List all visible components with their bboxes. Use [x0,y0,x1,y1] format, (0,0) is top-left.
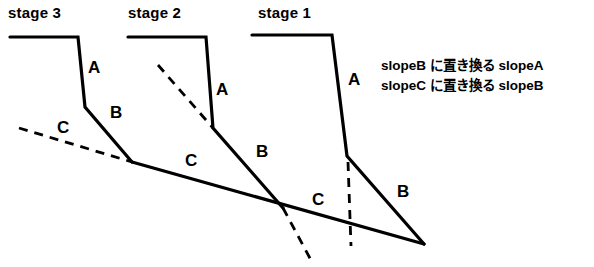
label-stage3-slope-c: C [57,118,69,138]
annotation-notes: slopeB に置き換る slopeA slopeC に置き換る slopeB [381,56,593,96]
label-stage2-slope-b: B [256,142,268,162]
label-stage1-slope-c: C [312,190,324,210]
note-slope-b-to-c: slopeC に置き換る slopeB [381,76,593,96]
slope-stages-diagram [0,0,594,267]
label-stage3-slope-b: B [110,103,122,123]
note-slope-a-to-b: slopeB に置き換る slopeA [381,56,593,76]
stage1-dashed-vertical-line [348,162,351,246]
stage3-dashed-slope-c-line [19,128,132,162]
stage-label-stage-3: stage 3 [8,4,61,21]
solid-slope-lines [10,35,424,244]
label-stage1-slope-b: B [397,182,409,202]
long-slope-c-line [132,162,424,244]
stage-label-stage-1: stage 1 [258,4,311,21]
figure-root: stage 3 stage 2 stage 1 A B C A B C A B … [0,0,594,267]
stage2-dashed-slope-extension-line [283,208,312,262]
stage2-dashed-slope-line [158,65,213,128]
label-stage2-slope-c: C [185,151,197,171]
label-stage1-slope-a: A [348,70,360,90]
label-stage2-slope-a: A [216,80,228,100]
label-stage3-slope-a: A [88,58,100,78]
stage-label-stage-2: stage 2 [128,4,181,21]
